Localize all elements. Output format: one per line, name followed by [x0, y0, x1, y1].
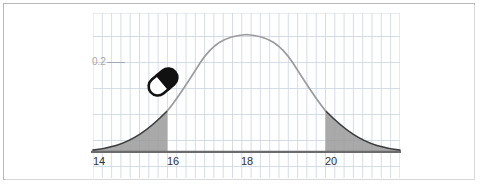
normal-curve — [167, 35, 325, 111]
x-axis-tick-label-16: 16 — [167, 155, 179, 167]
screenshot-root: 0.2 14 16 18 20 — [0, 0, 490, 188]
pill-capsule-icon — [143, 62, 183, 102]
x-axis-tick-label-14: 14 — [93, 155, 105, 167]
pill-capsule-annotation — [143, 62, 183, 102]
x-axis-tick-label-18: 18 — [241, 155, 253, 167]
chart-gridlines — [93, 13, 400, 178]
y-axis-tick-label-0-2: 0.2 — [92, 56, 106, 67]
x-axis-tick-label-20: 20 — [325, 155, 337, 167]
